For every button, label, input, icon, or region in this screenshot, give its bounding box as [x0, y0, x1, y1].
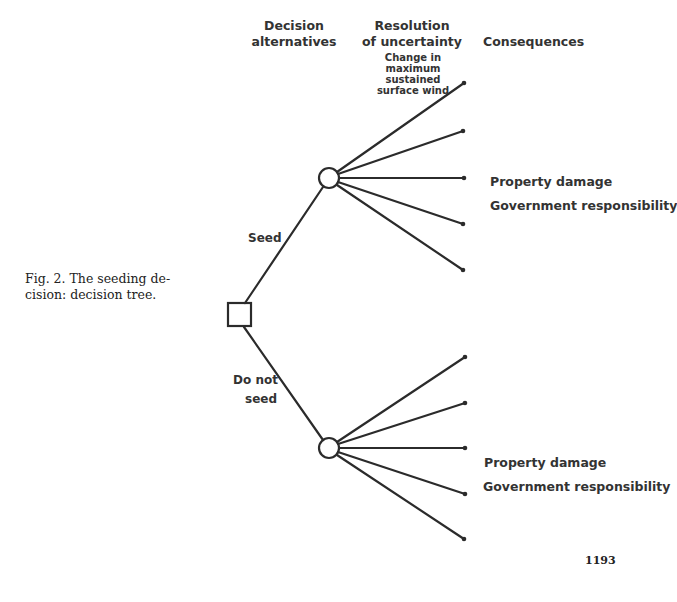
branch-label-seed: Seed [248, 229, 282, 248]
header-consequences: Consequences [483, 34, 584, 50]
header-resolution-of-uncertainty: Resolution of uncertainty [352, 18, 472, 50]
consequences-seed: Property damage Government responsibilit… [490, 170, 677, 218]
outcome-endpoints [461, 81, 468, 542]
page-number: 1193 [585, 554, 616, 567]
seed-outcome-lines [337, 83, 464, 270]
branch-label-do-not-seed: Do not seed [233, 371, 278, 409]
decision-node-square [228, 303, 251, 326]
figure-caption: Fig. 2. The seeding de- cision: decision… [25, 271, 170, 303]
header-decision-alternatives: Decision alternatives [244, 18, 344, 50]
uncertainty-variable-label: Change in maximum sustained surface wind [358, 52, 468, 96]
do-not-seed-outcome-lines [337, 357, 465, 539]
consequences-do-not-seed: Property damage Government responsibilit… [483, 451, 670, 499]
